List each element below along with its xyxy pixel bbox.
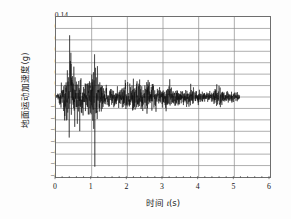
x-axis-tick-label: 5 — [221, 182, 245, 191]
x-axis-tick-label: 1 — [79, 182, 103, 191]
acceleration-time-history-figure: 地面运动加速度(g) 0.140.120.100.080.060.040.020… — [0, 0, 291, 219]
plot-area — [55, 16, 271, 178]
x-axis-tick-label: 4 — [186, 182, 210, 191]
x-axis-tick-label: 6 — [257, 182, 281, 191]
x-axis-tick-label: 0 — [43, 182, 67, 191]
waveform-svg — [56, 17, 270, 177]
x-axis-label-text: 时间 — [146, 198, 167, 208]
x-axis-tick-label: 3 — [150, 182, 174, 191]
x-axis-label: 时间 t(s) — [55, 196, 271, 208]
x-axis-unit: (s) — [169, 198, 180, 208]
acceleration-trace — [56, 35, 240, 166]
x-axis-tick-label: 2 — [114, 182, 138, 191]
